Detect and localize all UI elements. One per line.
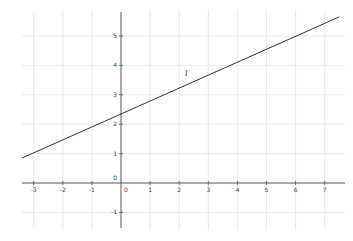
line-label-l: l bbox=[185, 69, 188, 78]
x-tick-label: -3 bbox=[31, 186, 37, 193]
y-tick-label: 5 bbox=[113, 32, 117, 39]
x-tick-label: -2 bbox=[60, 186, 66, 193]
y-tick-label: 1 bbox=[113, 150, 117, 157]
y-tick-label: -1 bbox=[111, 208, 117, 215]
x-tick-label: 2 bbox=[177, 186, 181, 193]
y-tick-label: 4 bbox=[113, 61, 117, 68]
x-tick-label: -1 bbox=[89, 186, 95, 193]
line-l bbox=[22, 17, 339, 158]
x-tick-label: 3 bbox=[206, 186, 210, 193]
x-tick-label: 7 bbox=[323, 186, 327, 193]
y-tick-label: 3 bbox=[113, 91, 117, 98]
x-tick-label: 4 bbox=[235, 186, 239, 193]
x-tick-label: 5 bbox=[265, 186, 269, 193]
x-tick-label: 6 bbox=[294, 186, 298, 193]
x-tick-label: 1 bbox=[148, 186, 152, 193]
y-tick-label: 0 bbox=[113, 174, 117, 181]
y-tick-label: 2 bbox=[113, 120, 117, 127]
graph-canvas: -3-2-101234567-1012345l bbox=[0, 0, 353, 241]
x-tick-label: 0 bbox=[124, 186, 128, 193]
